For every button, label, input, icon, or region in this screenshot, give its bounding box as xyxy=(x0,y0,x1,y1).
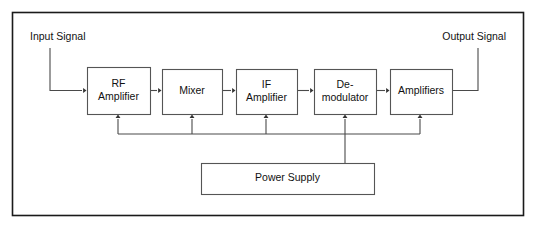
amplifiers-block-text-line-1: Amplifiers xyxy=(398,84,444,96)
power-supply-block-text-line-1: Power Supply xyxy=(255,171,321,183)
block-diagram: Superheterodyne Receiver Block Diagram R… xyxy=(0,0,535,230)
if-amplifier-block[interactable]: IFAmplifier xyxy=(237,70,298,115)
demodulator-block-text-line-2: modulator xyxy=(322,91,369,103)
rf-amplifier-block[interactable]: RFAmplifier xyxy=(88,68,151,115)
amplifiers-block[interactable]: Amplifiers xyxy=(391,70,453,115)
demodulator-block-text-line-1: De- xyxy=(337,78,354,90)
input-signal-label: Input Signal xyxy=(30,30,85,42)
block-diagram-canvas: Superheterodyne Receiver Block Diagram R… xyxy=(0,0,535,230)
power-supply-block[interactable]: Power Supply xyxy=(202,164,375,195)
rf-amplifier-block-text-line-2: Amplifier xyxy=(98,90,139,102)
mixer-block[interactable]: Mixer xyxy=(163,70,223,115)
output-signal-label: Output Signal xyxy=(442,30,506,42)
rf-amplifier-block-text-line-1: RF xyxy=(112,77,126,89)
demodulator-block[interactable]: De-modulator xyxy=(315,70,377,115)
mixer-block-text-line-1: Mixer xyxy=(179,84,205,96)
if-amplifier-block-text-line-2: Amplifier xyxy=(246,91,287,103)
if-amplifier-block-text-line-1: IF xyxy=(262,78,271,90)
